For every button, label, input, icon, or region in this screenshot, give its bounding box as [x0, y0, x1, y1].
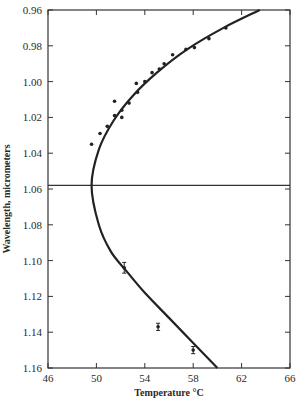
x-tick-label: 66 — [285, 372, 297, 384]
x-tick-label: 46 — [43, 372, 55, 384]
y-tick-label: 1.14 — [23, 326, 43, 338]
data-point — [150, 71, 154, 75]
fitted-curve — [92, 10, 260, 368]
x-tick-label: 62 — [236, 372, 247, 384]
x-tick-label: 58 — [188, 372, 200, 384]
data-point — [90, 142, 94, 146]
data-point — [171, 53, 175, 57]
y-tick-label: 1.08 — [23, 219, 43, 231]
y-tick-label: 1.06 — [23, 183, 43, 195]
y-tick-label: 1.12 — [23, 290, 42, 302]
data-point — [120, 116, 124, 120]
x-tick-label: 54 — [139, 372, 151, 384]
y-tick-label: 1.10 — [23, 255, 43, 267]
y-axis-label: Wavelength, micrometers — [1, 144, 12, 253]
data-point — [191, 348, 195, 352]
y-tick-label: 0.98 — [23, 40, 43, 52]
y-tick-label: 1.02 — [23, 111, 42, 123]
data-point — [156, 325, 160, 329]
chart: 4650545862660.960.981.001.021.041.061.08… — [0, 0, 301, 402]
y-tick-label: 1.00 — [23, 76, 43, 88]
y-tick-label: 1.04 — [23, 147, 43, 159]
x-tick-label: 50 — [91, 372, 103, 384]
y-tick-label: 0.96 — [23, 4, 43, 16]
data-point — [113, 99, 117, 103]
data-point — [98, 132, 102, 136]
data-point — [135, 82, 139, 86]
y-tick-label: 1.16 — [23, 362, 43, 374]
x-axis-label: Temperature °C — [134, 387, 203, 398]
